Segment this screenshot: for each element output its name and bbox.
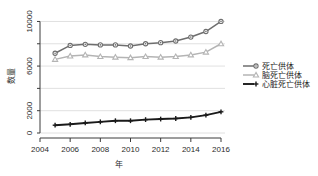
y-axis-title: 数量 bbox=[6, 68, 16, 84]
triangle-data-marker bbox=[188, 52, 193, 57]
series-circle bbox=[53, 19, 223, 55]
plus-data-marker bbox=[53, 123, 58, 128]
series-line bbox=[55, 21, 221, 53]
x-tick-label: 2008 bbox=[91, 145, 109, 154]
legend-item-label: 死亡供体 bbox=[262, 61, 294, 71]
circle-data-marker bbox=[98, 43, 102, 47]
triangle-data-marker bbox=[158, 55, 163, 60]
legend-item[interactable]: 心脏死亡供体 bbox=[243, 79, 310, 89]
x-tick-label: 2006 bbox=[61, 145, 79, 154]
circle-data-marker bbox=[83, 42, 87, 46]
circle-data-marker bbox=[53, 51, 57, 55]
legend-item-label: 脑死亡供体 bbox=[262, 70, 302, 80]
circle-data-marker bbox=[204, 29, 208, 33]
plus-data-marker bbox=[219, 109, 224, 114]
circle-data-marker bbox=[128, 44, 132, 48]
x-tick-label: 2010 bbox=[122, 145, 140, 154]
plus-data-marker bbox=[204, 113, 209, 118]
series-line bbox=[55, 112, 221, 125]
chart-figure: 0200060001000020042006200820102012201420… bbox=[0, 0, 318, 176]
data-series-group bbox=[52, 19, 223, 127]
triangle-data-marker bbox=[83, 52, 88, 57]
x-tick-label: 2004 bbox=[31, 145, 49, 154]
triangle-data-marker bbox=[52, 57, 57, 62]
line-chart-svg: 0200060001000020042006200820102012201420… bbox=[0, 0, 318, 176]
triangle-data-marker bbox=[218, 41, 223, 46]
circle-data-marker bbox=[174, 39, 178, 43]
circle-data-marker bbox=[219, 19, 223, 23]
plus-data-marker bbox=[173, 116, 178, 121]
series-plus bbox=[53, 109, 224, 127]
plus-data-marker bbox=[128, 118, 133, 123]
triangle-data-marker bbox=[68, 53, 73, 58]
plus-data-marker bbox=[83, 121, 88, 126]
triangle-data-marker bbox=[128, 55, 133, 60]
x-axis-title: 年 bbox=[115, 159, 123, 169]
plus-data-marker bbox=[188, 115, 193, 120]
plus-data-marker bbox=[254, 82, 259, 87]
plus-data-marker bbox=[143, 117, 148, 122]
triangle-data-marker bbox=[253, 72, 258, 77]
y-tick-label: 2000 bbox=[25, 101, 34, 119]
triangle-data-marker bbox=[173, 54, 178, 59]
x-tick-label: 2012 bbox=[152, 145, 170, 154]
chart-legend: 死亡供体脑死亡供体心脏死亡供体 bbox=[243, 61, 310, 89]
legend-item[interactable]: 脑死亡供体 bbox=[243, 70, 302, 80]
y-tick-label: 10000 bbox=[25, 10, 34, 33]
triangle-data-marker bbox=[98, 54, 103, 59]
plus-data-marker bbox=[158, 117, 163, 122]
plus-data-marker bbox=[113, 118, 118, 123]
tick-labels-group: 0200060001000020042006200820102012201420… bbox=[25, 10, 230, 154]
y-tick-label: 0 bbox=[25, 130, 34, 135]
x-tick-label: 2014 bbox=[182, 145, 200, 154]
circle-data-marker bbox=[189, 35, 193, 39]
series-line bbox=[55, 44, 221, 60]
plus-data-marker bbox=[68, 122, 73, 127]
circle-data-marker bbox=[68, 43, 72, 47]
circle-data-marker bbox=[143, 42, 147, 46]
circle-data-marker bbox=[159, 41, 163, 45]
triangle-data-marker bbox=[143, 54, 148, 59]
legend-item[interactable]: 死亡供体 bbox=[243, 61, 294, 71]
triangle-data-marker bbox=[203, 50, 208, 55]
triangle-data-marker bbox=[113, 55, 118, 60]
x-tick-label: 2016 bbox=[212, 145, 230, 154]
y-tick-label: 6000 bbox=[25, 57, 34, 75]
legend-item-label: 心脏死亡供体 bbox=[262, 79, 310, 89]
plus-data-marker bbox=[98, 119, 103, 124]
circle-data-marker bbox=[254, 64, 258, 68]
circle-data-marker bbox=[113, 43, 117, 47]
